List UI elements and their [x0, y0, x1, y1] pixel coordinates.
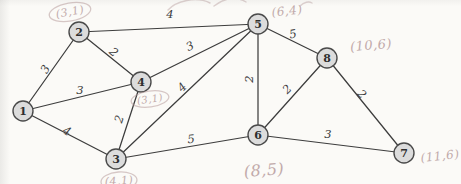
- node-number-7: 7: [400, 147, 408, 160]
- edge-weight-5-6: 2: [242, 75, 256, 83]
- graph-node-6: 6: [248, 125, 268, 145]
- node-number-3: 3: [112, 153, 120, 166]
- scanned-graph-figure: 3342432452523212345678(3,1)(6,4)(10,6)(3…: [0, 0, 461, 184]
- graph-node-2: 2: [69, 22, 89, 42]
- pencil-annotation-text-5: (4,1): [104, 174, 133, 184]
- node-number-4: 4: [137, 76, 145, 89]
- graph-node-5: 5: [248, 14, 268, 34]
- pencil-annotation-text-4: (8,5): [243, 159, 285, 181]
- edge-weight-1-4: 3: [76, 83, 83, 97]
- graph-node-7: 7: [394, 143, 414, 163]
- node-number-2: 2: [75, 26, 83, 39]
- graph-node-4: 4: [131, 72, 151, 92]
- edge-weight-3-6: 5: [187, 132, 196, 147]
- node-number-5: 5: [254, 18, 262, 31]
- node-number-6: 6: [254, 129, 262, 142]
- pencil-label-4: (8,5): [243, 159, 285, 181]
- graph-node-1: 1: [13, 101, 33, 121]
- graph-canvas: 3342432452523212345678(3,1)(6,4)(10,6)(3…: [0, 0, 461, 184]
- edge-weight-2-5: 4: [165, 7, 173, 21]
- graph-node-3: 3: [106, 149, 126, 169]
- edge-weight-6-7: 3: [324, 127, 331, 141]
- node-number-8: 8: [323, 52, 331, 65]
- paper-background: [0, 0, 461, 184]
- node-number-1: 1: [19, 105, 27, 118]
- graph-node-8: 8: [317, 48, 337, 68]
